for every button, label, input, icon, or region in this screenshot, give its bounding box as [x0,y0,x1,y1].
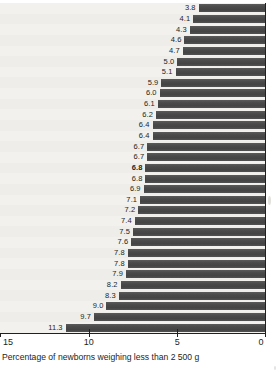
bar-fill [160,89,266,97]
bar-fill [144,185,266,193]
bar [176,68,266,76]
bar-row: 7.4 [0,216,266,227]
bar-value-label: 6.9 [130,185,141,193]
bar-row: 5.9 [0,77,266,88]
bar-fill [184,36,266,44]
bar-value-label: 6.2 [142,111,153,119]
bar-value-label: 5.9 [148,79,159,87]
bar [121,281,266,289]
bar-value-label: 4.3 [176,26,187,34]
bar-fill [106,302,266,310]
bar-row: 9.0 [0,301,266,312]
bar-fill [119,292,266,300]
bar [128,249,266,257]
bar [147,143,266,151]
bar-value-label: 5.0 [164,58,175,66]
bar-fill [153,132,266,140]
bar-fill [161,79,266,87]
bar-value-label: 6.8 [132,175,143,183]
bar-value-label: 6.4 [139,132,150,140]
bar-row: 7.6 [0,237,266,248]
bar-value-label: 4.7 [169,47,180,55]
bar-row: 8.2 [0,280,266,291]
bar [184,36,266,44]
bar-value-label: 6.7 [133,143,144,151]
bar [147,153,266,161]
axis-tick [265,334,266,337]
bar-value-label: 11.3 [48,324,62,332]
bar [119,292,266,300]
bar-chart: 3.84.14.34.64.75.05.15.96.06.16.26.46.46… [0,0,280,372]
bar-row: 6.9 [0,184,266,195]
axis-tick-label: 5 [175,337,180,348]
plot-area: 3.84.14.34.64.75.05.15.96.06.16.26.46.46… [0,3,280,333]
bar [126,270,266,278]
bar-fill [145,175,266,183]
bar-row: 6.1 [0,99,266,110]
bar [193,15,266,23]
bar-row: 5.1 [0,67,266,78]
scan-artifact-speck [274,366,276,370]
bar-row: 6.0 [0,88,266,99]
bar [145,175,266,183]
bar [94,313,266,321]
bar-row: 6.8 [0,163,266,174]
bar-row: 4.3 [0,24,266,35]
bar-row: 6.7 [0,152,266,163]
bar-row: 6.7 [0,141,266,152]
bar-fill [190,26,266,34]
bar-fill [193,15,266,23]
bar-fill [176,68,266,76]
bar-row: 6.8 [0,173,266,184]
axis-tick [0,334,1,337]
bar-row: 7.8 [0,248,266,259]
bar-value-label: 7.8 [114,249,125,257]
bar-value-label: 6.4 [139,121,150,129]
axis-tick-label: 15 [3,337,13,348]
bar-value-label: 3.8 [185,4,196,12]
bar [158,100,266,108]
bar-value-label: 7.9 [112,270,123,278]
bar-value-label: 6.1 [144,100,155,108]
bar [135,217,266,225]
bar-row: 4.6 [0,35,266,46]
bar-fill [133,228,266,236]
bar-value-label: 9.0 [93,302,104,310]
bar [183,47,266,55]
bar-row: 6.4 [0,120,266,131]
bar-fill [128,260,266,268]
axis-tick-inner [177,329,178,333]
bar [138,206,266,214]
bar-value-label: 4.1 [180,15,191,23]
bar-value-label: 7.6 [118,238,129,246]
bar-fill [121,281,266,289]
bar-value-label: 5.1 [162,68,173,76]
bar-row: 7.5 [0,226,266,237]
bar-fill [153,121,266,129]
bar [133,228,266,236]
bar [156,111,266,119]
scan-artifact-speck [268,196,271,205]
axis-caption: Percentage of newborns weighing less tha… [2,352,199,363]
bar-row: 7.8 [0,258,266,269]
bar-fill [128,249,266,257]
axis-tick-inner [89,329,90,333]
bar [160,89,266,97]
bar-fill [135,217,266,225]
bar-fill [140,196,266,204]
bar-fill [147,153,266,161]
bar-fill [145,164,266,172]
bar [199,4,266,12]
bar [177,58,266,66]
axis-tick-label: 10 [84,337,94,348]
bar-row: 6.2 [0,109,266,120]
category-axis-line [0,333,266,334]
bar [131,238,266,246]
bar-row: 11.3 [0,322,266,333]
bar-row: 3.8 [0,3,266,14]
bar-fill [158,100,266,108]
bar-fill [131,238,266,246]
bar-value-label: 6.0 [146,89,157,97]
bar-fill [126,270,266,278]
bar-row: 5.0 [0,56,266,67]
